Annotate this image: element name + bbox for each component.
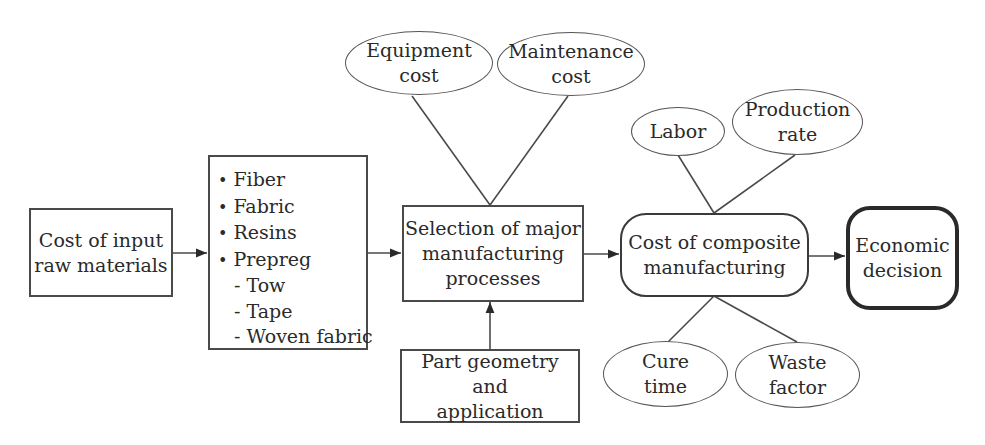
node-text: Part geometry and (402, 349, 578, 399)
node-text: application (436, 399, 543, 424)
node-text: Cure (642, 349, 689, 374)
line-maintenance-to-selection (490, 96, 568, 205)
node-text: processes (445, 266, 540, 291)
line-production-to-composite (714, 155, 795, 213)
list-item: Prepreg (218, 247, 311, 274)
node-waste-factor: Waste factor (735, 342, 860, 408)
node-text: Labor (650, 119, 707, 144)
node-economic-decision: Economic decision (846, 206, 959, 310)
node-text: Cost of composite (628, 230, 800, 255)
list-subitem: - Tow (218, 273, 285, 299)
node-labor: Labor (631, 107, 725, 156)
node-process-selection: Selection of major manufacturing process… (402, 205, 584, 302)
node-text: Economic (855, 233, 949, 258)
node-text: raw materials (34, 253, 167, 278)
node-cure-time: Cure time (603, 341, 728, 407)
node-text: manufacturing (643, 255, 785, 280)
line-equipment-to-selection (412, 96, 490, 205)
node-text: Cost of input (39, 228, 163, 253)
node-input-raw-materials: Cost of input raw materials (29, 208, 173, 297)
list-item: Fiber (218, 167, 285, 194)
node-text: Equipment (366, 38, 472, 63)
list-subitem: - Woven fabric (218, 324, 373, 350)
node-text: time (644, 374, 687, 399)
node-text: Maintenance (508, 39, 634, 64)
node-material-types: Fiber Fabric Resins Prepreg - Tow - Tape… (208, 155, 368, 350)
line-labor-to-composite (678, 155, 714, 213)
node-maintenance-cost: Maintenance cost (497, 32, 645, 96)
node-production-rate: Production rate (732, 89, 863, 155)
node-text: decision (863, 258, 943, 283)
line-cure-to-composite (668, 296, 714, 342)
list-item: Fabric (218, 194, 295, 221)
node-text: manufacturing (422, 241, 564, 266)
list-item: Resins (218, 220, 297, 247)
node-text: cost (399, 63, 438, 88)
node-text: rate (778, 122, 817, 147)
node-text: Waste (769, 350, 827, 375)
node-equipment-cost: Equipment cost (345, 31, 493, 95)
node-text: cost (551, 64, 590, 89)
node-text: Production (745, 97, 851, 122)
list-subitem: - Tape (218, 299, 292, 325)
node-text: factor (769, 375, 826, 400)
node-composite-cost: Cost of composite manufacturing (620, 213, 809, 297)
line-waste-to-composite (714, 296, 797, 342)
node-part-geometry: Part geometry and application (400, 349, 580, 423)
node-text: Selection of major (405, 216, 581, 241)
